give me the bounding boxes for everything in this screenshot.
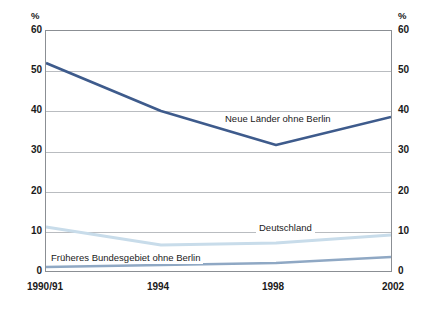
x-tick-1994: 1994 xyxy=(133,281,183,293)
y-tick-right-60: 60 xyxy=(398,24,426,36)
y-tick-left-0: 0 xyxy=(14,265,42,277)
y-tick-right-40: 40 xyxy=(398,104,426,116)
x-tick-2002: 2002 xyxy=(368,281,418,293)
y-tick-left-30: 30 xyxy=(14,144,42,156)
y-tick-right-50: 50 xyxy=(398,64,426,76)
y-axis-unit-right: % xyxy=(398,10,406,21)
y-tick-right-30: 30 xyxy=(398,144,426,156)
series-label-deutschland: Deutschland xyxy=(256,222,315,234)
series-label-frueheres-bundesgebiet: Früheres Bundesgebiet ohne Berlin xyxy=(48,252,203,264)
series-lines xyxy=(46,31,391,271)
y-tick-left-20: 20 xyxy=(14,185,42,197)
y-tick-right-10: 10 xyxy=(398,225,426,237)
y-tick-right-20: 20 xyxy=(398,185,426,197)
plot-area xyxy=(45,30,392,272)
line-deutschland xyxy=(46,227,391,245)
x-tick-1990-91: 1990/91 xyxy=(6,281,84,293)
y-tick-left-10: 10 xyxy=(14,225,42,237)
series-label-neue-laender: Neue Länder ohne Berlin xyxy=(222,113,334,125)
y-tick-left-60: 60 xyxy=(14,24,42,36)
y-tick-right-0: 0 xyxy=(398,265,426,277)
y-axis-unit-left: % xyxy=(31,10,39,21)
line-neue-laender xyxy=(46,63,391,145)
line-chart: % % 60 50 40 30 20 10 0 60 50 40 30 20 1… xyxy=(0,0,437,317)
y-tick-left-40: 40 xyxy=(14,104,42,116)
y-tick-left-50: 50 xyxy=(14,64,42,76)
x-tick-1998: 1998 xyxy=(248,281,298,293)
